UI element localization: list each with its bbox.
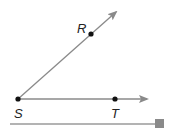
point-t <box>112 96 117 101</box>
ray-sr <box>18 12 116 99</box>
slider-handle[interactable] <box>155 119 164 128</box>
point-s <box>15 96 20 101</box>
label-t: T <box>111 107 119 120</box>
label-r: R <box>77 22 86 35</box>
point-r <box>88 31 93 36</box>
geometry-diagram <box>0 0 169 130</box>
label-s: S <box>14 107 23 120</box>
